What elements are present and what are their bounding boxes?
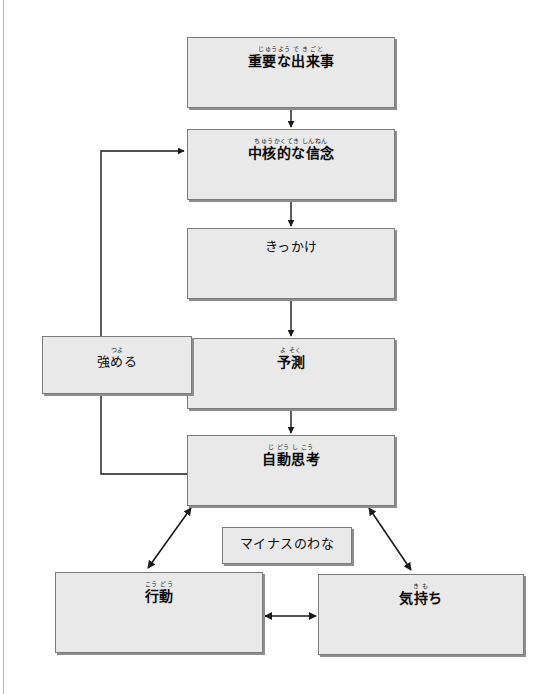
node-strengthen-text: 強める — [97, 355, 138, 369]
node-automatic-thought-ruby: じ どう し こう — [262, 444, 320, 451]
node-important-event-label: じゅうよう で き ごと 重要な出来事 — [248, 46, 335, 69]
node-feelings-label: き も 気持ち — [399, 583, 443, 606]
node-strengthen-label: つよ 強める — [97, 347, 138, 369]
edge-thought-to-belief-loop — [101, 151, 187, 474]
node-prediction[interactable]: よ そく 予測 — [187, 338, 395, 409]
node-feelings-text: 気持ち — [399, 591, 443, 606]
node-core-belief[interactable]: ちゅうかくてき しんねん 中核的な信念 — [187, 129, 395, 200]
node-core-belief-ruby: ちゅうかくてき しんねん — [248, 138, 335, 145]
node-trigger-text: きっかけ — [265, 240, 318, 254]
node-important-event-text: 重要な出来事 — [248, 54, 335, 69]
node-automatic-thought-text: 自動思考 — [262, 452, 320, 467]
node-trigger[interactable]: きっかけ — [187, 228, 395, 299]
node-prediction-text: 予測 — [277, 355, 306, 370]
node-feelings[interactable]: き も 気持ち — [318, 574, 524, 655]
node-behaviour-label: こう どう 行動 — [145, 581, 174, 604]
node-important-event[interactable]: じゅうよう で き ごと 重要な出来事 — [187, 37, 395, 108]
node-negative-trap[interactable]: マイナスのわな — [222, 527, 352, 564]
node-negative-trap-label: マイナスのわな — [240, 537, 335, 551]
node-feelings-ruby: き も — [399, 583, 443, 590]
edge-thought-to-behaviour — [148, 508, 191, 568]
diagram-page: じゅうよう で き ごと 重要な出来事 ちゅうかくてき しんねん 中核的な信念 … — [0, 0, 555, 694]
node-behaviour[interactable]: こう どう 行動 — [55, 572, 263, 653]
node-automatic-thought-label: じ どう し こう 自動思考 — [262, 444, 320, 467]
node-prediction-label: よ そく 予測 — [277, 347, 306, 370]
node-core-belief-text: 中核的な信念 — [248, 146, 335, 161]
node-behaviour-ruby: こう どう — [145, 581, 174, 588]
node-prediction-ruby: よ そく — [277, 347, 306, 354]
node-automatic-thought[interactable]: じ どう し こう 自動思考 — [187, 435, 395, 506]
edge-thought-to-feelings — [369, 508, 411, 570]
node-important-event-ruby: じゅうよう で き ごと — [248, 46, 335, 53]
node-strengthen[interactable]: つよ 強める — [42, 336, 192, 394]
node-strengthen-ruby: つよ — [97, 347, 138, 354]
node-behaviour-text: 行動 — [145, 589, 174, 604]
node-core-belief-label: ちゅうかくてき しんねん 中核的な信念 — [248, 138, 335, 161]
node-trigger-label: きっかけ — [265, 240, 318, 254]
node-negative-trap-text: マイナスのわな — [240, 537, 335, 551]
